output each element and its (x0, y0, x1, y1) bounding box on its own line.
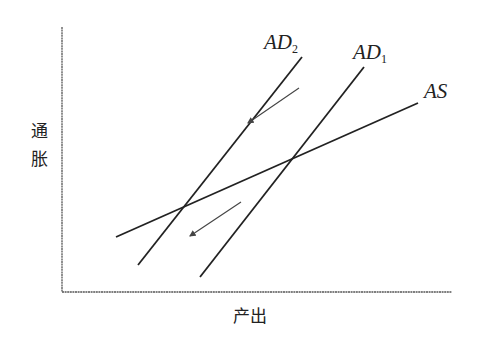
ad1-curve (200, 67, 364, 277)
ad2-label: AD2 (264, 30, 298, 57)
ad2-label-sub: 2 (292, 42, 298, 56)
y-axis-label-bottom: 胀 (31, 145, 48, 170)
as-label-main: AS (424, 79, 447, 103)
ad1-label-main: AD (353, 40, 381, 64)
as-label: AS (424, 79, 447, 104)
x-axis-label: 产出 (233, 302, 267, 327)
as-curve (116, 103, 418, 237)
ad2-label-main: AD (264, 30, 292, 54)
ad2-curve (138, 57, 302, 265)
ad1-label: AD1 (353, 40, 387, 67)
y-axis-label-top: 通 (31, 117, 48, 142)
shift-arrow-lower (190, 202, 241, 236)
diagram-canvas (0, 0, 477, 352)
ad1-label-sub: 1 (381, 52, 387, 66)
